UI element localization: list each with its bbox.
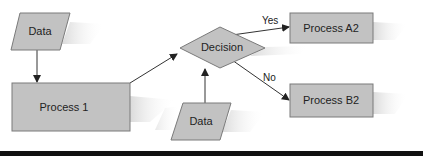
- edge-label-yes: Yes: [262, 15, 278, 26]
- edge-decision-to-b2: [232, 60, 289, 100]
- node-data-top[interactable]: Data: [11, 13, 70, 50]
- node-process-1[interactable]: Process 1: [12, 83, 130, 131]
- node-label: Data: [189, 115, 213, 127]
- edge-decision-to-a2: [232, 27, 289, 35]
- node-label: Process B2: [303, 94, 359, 106]
- edge-label-no: No: [263, 72, 276, 83]
- flowchart-canvas: Data Process 1 Decision Data Process A2 …: [0, 0, 423, 156]
- node-decision[interactable]: Decision: [180, 27, 265, 68]
- node-label: Process A2: [303, 22, 359, 34]
- edge-process1-to-decision: [130, 54, 177, 83]
- bottom-rule: [0, 151, 423, 156]
- node-label: Process 1: [40, 101, 89, 113]
- node-data-bottom[interactable]: Data: [171, 103, 231, 140]
- node-label: Data: [28, 25, 52, 37]
- node-process-a2[interactable]: Process A2: [290, 13, 373, 43]
- node-process-b2[interactable]: Process B2: [290, 84, 373, 117]
- node-label: Decision: [201, 41, 243, 53]
